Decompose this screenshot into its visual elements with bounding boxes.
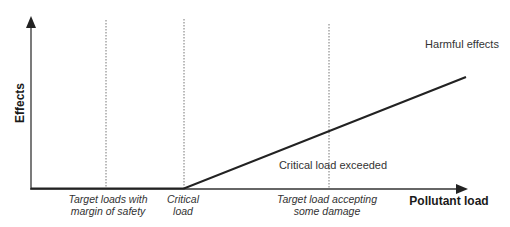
- x-axis-arrowhead: [456, 184, 468, 194]
- annotation-harmful-effects: Harmful effects: [425, 38, 499, 50]
- marker-label-target-damage-line1: Target load accepting: [277, 193, 377, 205]
- marker-label-critical-line1: Critical: [167, 193, 200, 205]
- y-axis-arrowhead: [26, 16, 36, 28]
- effects-curve: [31, 77, 466, 189]
- marker-label-critical-line2: load: [173, 205, 194, 217]
- diagram-canvas: Effects Pollutant load Target loads with…: [0, 0, 510, 227]
- marker-label-target-safety-line1: Target loads with: [69, 193, 148, 205]
- annotation-critical-load-exceeded: Critical load exceeded: [279, 159, 387, 171]
- x-axis-label: Pollutant load: [409, 194, 488, 208]
- y-axis-label: Effects: [13, 83, 27, 123]
- marker-label-target-damage-line2: some damage: [294, 205, 361, 217]
- marker-label-target-safety-line2: margin of safety: [71, 205, 146, 217]
